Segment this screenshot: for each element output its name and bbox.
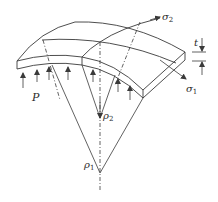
rho1-label: ρ1: [83, 159, 94, 172]
shell-top-front-edge: [17, 55, 143, 90]
shell-top-mid-line-1: [42, 39, 176, 63]
shell-right-edge: [143, 52, 185, 90]
sigma2-label: σ2: [162, 11, 173, 24]
normal-dash-left: [43, 40, 60, 100]
shell-right-face: [143, 52, 185, 98]
rho2-line-left: [82, 65, 100, 118]
thickness-label: t: [194, 37, 199, 48]
shell-diagram: σ2 σ1 t P ρ2 ρ1: [0, 0, 218, 202]
rho2-label: ρ2: [102, 110, 113, 123]
shell-transverse-line: [82, 18, 160, 57]
pressure-label: P: [31, 91, 40, 104]
sigma1-label: σ1: [186, 83, 197, 96]
